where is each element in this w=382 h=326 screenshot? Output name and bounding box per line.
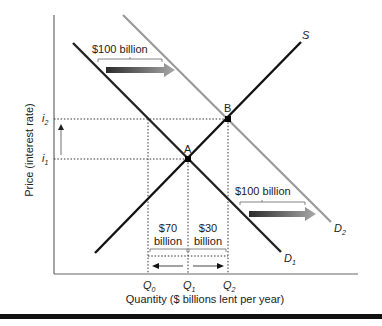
x-tick-q0: Q0 <box>143 279 156 293</box>
shift-bottom-brace <box>240 200 305 205</box>
shift-bottom-arrow-icon <box>249 207 316 221</box>
y-axis-label: Price (interest rate) <box>23 103 35 197</box>
x-tick-q2: Q2 <box>223 279 236 293</box>
supply-label: S <box>302 29 310 41</box>
point-a-label: A <box>184 143 192 155</box>
rate-increase-arrow-icon <box>58 124 64 155</box>
left-unit-label: billion <box>154 235 182 247</box>
shift-top-brace <box>98 57 162 62</box>
point-b-label: B <box>224 102 231 114</box>
point-a-marker <box>185 156 191 162</box>
shift-bottom-label: $100 billion <box>235 185 291 197</box>
bottom-rule <box>0 314 382 319</box>
right-amount-label: $30 <box>199 222 217 234</box>
quantity-left-arrow-icon <box>152 263 183 269</box>
demand-curve-d1 <box>73 43 281 252</box>
point-b-marker <box>225 116 231 122</box>
d2-label: D2 <box>334 222 346 236</box>
d1-label: D1 <box>284 252 296 266</box>
shift-top-label: $100 billion <box>92 43 148 55</box>
right-unit-label: billion <box>194 235 222 247</box>
loanable-funds-diagram: A B S D2 D1 i2 i1 Q0 Q1 Q2 Quantity ($ b… <box>0 0 382 326</box>
left-amount-label: $70 <box>159 222 177 234</box>
y-tick-i1: i1 <box>42 152 48 166</box>
y-tick-i2: i2 <box>42 112 48 126</box>
x-axis-label: Quantity ($ billions lent per year) <box>126 293 284 305</box>
quantity-right-arrow-icon <box>193 263 224 269</box>
x-tick-q1: Q1 <box>183 279 196 293</box>
shift-top-arrow-icon <box>106 63 175 77</box>
